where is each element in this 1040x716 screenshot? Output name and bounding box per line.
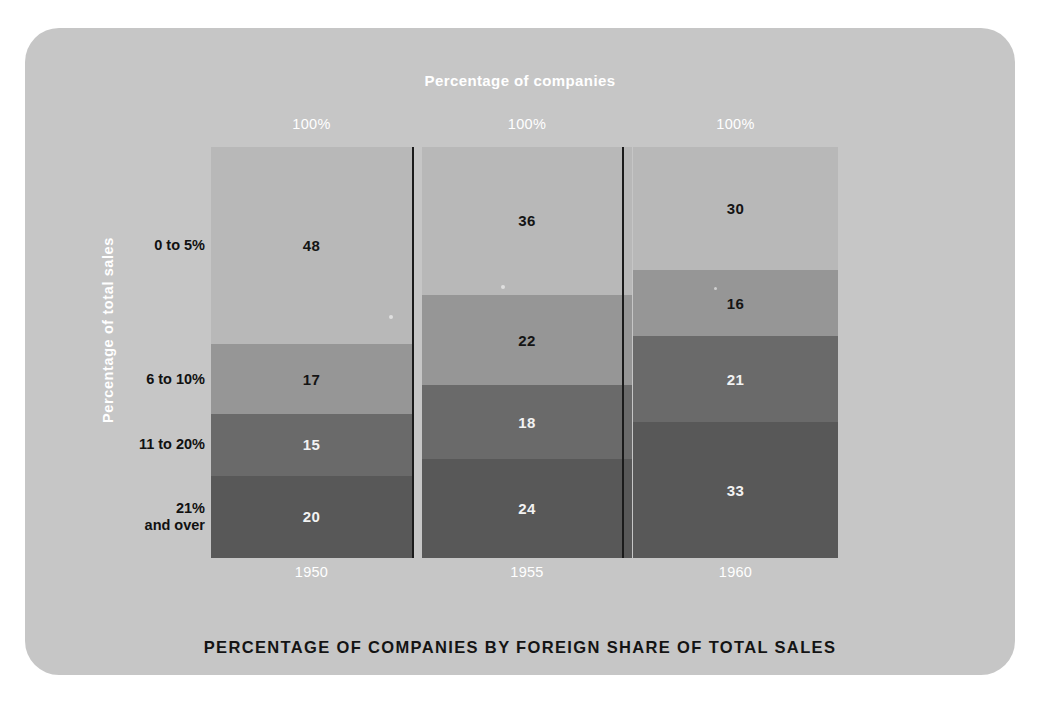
- segment-value-label: 24: [518, 500, 535, 517]
- segment-value-label: 22: [518, 332, 535, 349]
- bar-column-1950[interactable]: 48171520: [211, 147, 412, 558]
- segment-value-label: 30: [727, 200, 744, 217]
- bar-column-1955[interactable]: 36221824: [422, 147, 632, 558]
- column-divider-1: [412, 147, 414, 558]
- row-label-group: 0 to 5%6 to 10%11 to 20%21%and over: [60, 147, 205, 558]
- column-total-label-1955: 100%: [467, 116, 587, 132]
- segment-value-label: 21: [727, 371, 744, 388]
- segment-value-label: 15: [303, 436, 320, 453]
- bar-segment-1955-4[interactable]: 24: [422, 459, 632, 558]
- x-axis-tick-1955: 1955: [467, 564, 587, 580]
- bar-segment-1950-2[interactable]: 17: [211, 344, 412, 414]
- segment-value-label: 18: [518, 414, 535, 431]
- column-divider-2: [622, 147, 624, 558]
- row-label-3: 11 to 20%: [75, 436, 205, 453]
- column-total-label-1950: 100%: [252, 116, 372, 132]
- x-axis-tick-1960: 1960: [676, 564, 796, 580]
- row-label-4: 21%and over: [75, 500, 205, 534]
- bar-segment-1955-2[interactable]: 22: [422, 295, 632, 385]
- bar-segment-1950-1[interactable]: 48: [211, 147, 412, 344]
- segment-value-label: 36: [518, 212, 535, 229]
- segment-value-label: 20: [303, 508, 320, 525]
- segment-value-label: 17: [303, 371, 320, 388]
- bar-segment-1950-4[interactable]: 20: [211, 476, 412, 558]
- bar-segment-1960-3[interactable]: 21: [633, 336, 838, 422]
- bar-segment-1960-1[interactable]: 30: [633, 147, 838, 270]
- bar-column-1960[interactable]: 30162133: [633, 147, 838, 558]
- bar-segment-1960-2[interactable]: 16: [633, 270, 838, 336]
- bar-segment-1960-4[interactable]: 33: [633, 422, 838, 558]
- column-total-label-1960: 100%: [676, 116, 796, 132]
- segment-value-label: 16: [727, 295, 744, 312]
- x-axis-tick-1950: 1950: [252, 564, 372, 580]
- bar-segment-1955-3[interactable]: 18: [422, 385, 632, 459]
- stacked-bar-plot-area: 481715203622182430162133: [211, 147, 827, 558]
- segment-value-label: 48: [303, 237, 320, 254]
- bar-segment-1950-3[interactable]: 15: [211, 414, 412, 476]
- paper-speck-icon: [501, 285, 505, 289]
- row-label-1: 0 to 5%: [75, 237, 205, 254]
- row-label-2: 6 to 10%: [75, 371, 205, 388]
- segment-value-label: 33: [727, 482, 744, 499]
- chart-top-title: Percentage of companies: [0, 72, 1040, 89]
- paper-speck-icon: [389, 315, 393, 319]
- chart-bottom-title: PERCENTAGE OF COMPANIES BY FOREIGN SHARE…: [0, 638, 1040, 657]
- bar-segment-1955-1[interactable]: 36: [422, 147, 632, 295]
- paper-speck-icon: [714, 287, 717, 290]
